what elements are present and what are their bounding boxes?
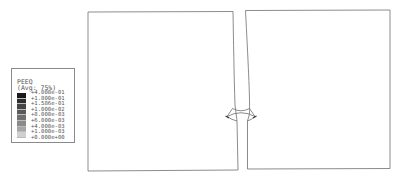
weld-bead-lower-arc <box>227 117 255 122</box>
right-plate-outline <box>246 10 391 169</box>
weld-bead-mid-arc <box>227 113 255 117</box>
left-plate-outline <box>88 12 238 172</box>
fe-model-diagram <box>0 0 401 181</box>
weld-bead-upper-arc <box>233 109 250 111</box>
